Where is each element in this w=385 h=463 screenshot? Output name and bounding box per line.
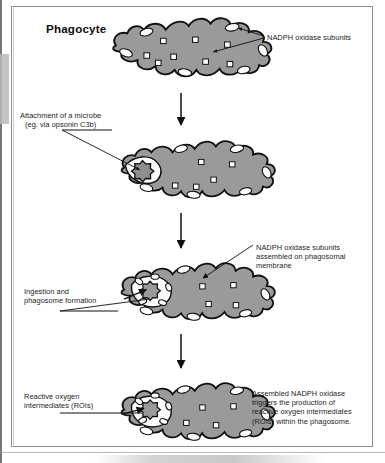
microbe (132, 161, 154, 182)
cytosolic-subunit (198, 159, 203, 164)
cytosolic-subunit (225, 42, 231, 47)
cytosolic-subunit (161, 38, 167, 43)
leader-line-attachment (62, 130, 140, 170)
label-reactive-oxygen-intermediates: Reactive oxygen intermediates (ROIs) (24, 392, 93, 410)
phagosomal-subunit (151, 274, 159, 279)
cytosolic-subunit (231, 404, 236, 409)
panel-3-phagosome-formation (122, 263, 275, 321)
cytosolic-subunit (231, 283, 236, 288)
cytosolic-subunit (200, 405, 205, 410)
cytosolic-subunit (206, 301, 211, 306)
cytosolic-subunit (211, 177, 216, 182)
cytosolic-subunit (172, 183, 177, 188)
cytosolic-subunit (184, 420, 189, 425)
panel-1-resting-phagocyte (113, 18, 271, 77)
cytosolic-subunit (233, 303, 238, 308)
label-ingestion-phagosome-formation: Ingestion and phagosome formation (24, 287, 96, 305)
phagosomal-subunit (151, 393, 159, 398)
label-nadph-assembled-on-phagosome: NADPH oxidase subunits assembled on phag… (256, 243, 345, 271)
cytosolic-subunit (155, 60, 161, 65)
cytosolic-subunit (229, 162, 234, 167)
cytosolic-subunit (227, 61, 233, 66)
cytosolic-subunit (144, 53, 150, 58)
cytosolic-subunit (200, 284, 205, 289)
label-assembled-oxidase-triggers-roi: Assembled NADPH oxidase triggers the pro… (252, 389, 352, 426)
cytosolic-subunit (193, 37, 199, 42)
panel-2-microbe-attachment (122, 141, 275, 199)
page-title: Phagocyte (46, 22, 106, 35)
cytosolic-subunit (203, 59, 209, 64)
label-nadph-oxidase-subunits: NADPH oxidase subunits (267, 33, 351, 42)
cytosolic-subunit (213, 423, 218, 428)
cytosolic-subunit (171, 54, 177, 59)
cytosolic-subunit (194, 184, 199, 189)
label-microbe-attachment: Attachment of a microbe (eg. via opsonin… (20, 111, 101, 129)
